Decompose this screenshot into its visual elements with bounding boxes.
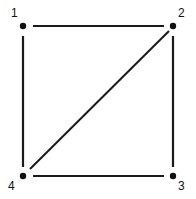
vertex-dot-3	[170, 173, 176, 179]
vertex-label-1: 1	[11, 7, 18, 19]
edge-diagonal-4-2	[30, 31, 169, 169]
vertex-label-3: 3	[178, 180, 185, 192]
vertex-label-2: 2	[178, 7, 185, 19]
vertex-dot-1	[20, 23, 26, 29]
vertex-dot-2	[170, 23, 176, 29]
vertex-label-4: 4	[8, 180, 15, 192]
vertex-dot-4	[20, 173, 26, 179]
edge-group	[23, 26, 173, 176]
graph-figure: 1 2 3 4	[0, 0, 196, 199]
graph-canvas	[0, 0, 196, 199]
